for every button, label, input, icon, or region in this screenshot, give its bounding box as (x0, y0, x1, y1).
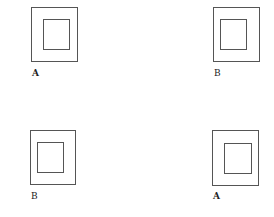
inner-square (220, 19, 247, 50)
figure-label: B (214, 68, 221, 78)
figure-label: A (32, 68, 39, 78)
inner-square (224, 143, 252, 174)
inner-square (37, 142, 64, 173)
figure-label: A (213, 191, 220, 201)
figure-label: B (31, 191, 38, 201)
inner-square (43, 19, 70, 50)
